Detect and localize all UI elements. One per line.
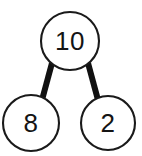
number-bond-canvas: 10 8 2 (0, 0, 142, 156)
node-label-whole: 10 (55, 26, 85, 56)
number-bond-diagram: 10 8 2 (0, 0, 142, 156)
link-whole-to-right-part (88, 63, 98, 100)
node-label-part-left: 8 (24, 108, 39, 138)
link-whole-to-left-part (42, 63, 52, 100)
node-label-part-right: 2 (101, 108, 116, 138)
